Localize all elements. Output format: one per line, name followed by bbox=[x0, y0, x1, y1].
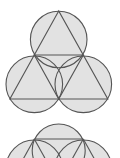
geometry-diagram bbox=[0, 0, 120, 158]
figure-three-circles-triangles bbox=[6, 11, 112, 113]
figure-partial-cropped bbox=[6, 124, 112, 158]
